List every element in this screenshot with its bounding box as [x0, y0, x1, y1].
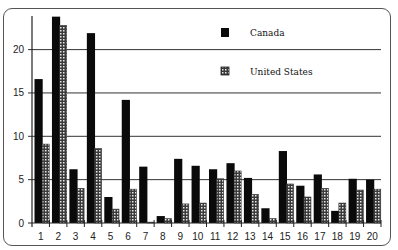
y-tick-label: 5 — [18, 174, 24, 185]
y-tick-label: 15 — [13, 87, 25, 98]
x-tick-label: 9 — [178, 231, 184, 242]
bar-canada — [157, 216, 165, 223]
x-tick-label: 6 — [125, 231, 131, 242]
legend-swatch-canada — [221, 28, 229, 37]
bar-canada — [192, 166, 200, 223]
bar-united-states — [199, 203, 206, 223]
x-tick-label: 3 — [73, 231, 79, 242]
x-tick-label: 18 — [332, 231, 344, 242]
gridlines — [28, 50, 381, 180]
bar-canada — [261, 208, 269, 223]
x-tick-label: 8 — [160, 231, 166, 242]
x-tick-label: 7 — [143, 231, 149, 242]
bar-canada — [314, 174, 322, 223]
bar-united-states — [42, 144, 49, 223]
bar-united-states — [287, 184, 294, 223]
bar-chart: 051015201234567891011121314151617181920 … — [0, 0, 398, 250]
x-tick-label: 14 — [262, 231, 274, 242]
bar-canada — [279, 151, 287, 223]
bar-canada — [139, 167, 147, 223]
bar-united-states — [339, 203, 346, 223]
bar-united-states — [164, 219, 171, 223]
bar-united-states — [269, 219, 276, 223]
bar-united-states — [112, 209, 119, 223]
bar-united-states — [77, 188, 84, 223]
x-tick-label: 11 — [210, 231, 221, 242]
x-tick-label: 13 — [245, 231, 257, 242]
bar-canada — [122, 100, 130, 223]
x-tick-label: 10 — [192, 231, 204, 242]
bar-united-states — [60, 25, 67, 223]
bar-canada — [226, 163, 234, 223]
bar-canada — [209, 169, 217, 223]
bar-united-states — [234, 171, 241, 223]
bar-united-states — [182, 204, 189, 223]
bar-canada — [52, 17, 60, 223]
legend-label-canada: Canada — [250, 28, 285, 38]
bar-canada — [69, 169, 77, 223]
bar-canada — [296, 186, 304, 223]
bar-united-states — [252, 194, 259, 223]
y-tick-label: 10 — [13, 131, 25, 142]
x-tick-label: 4 — [90, 231, 96, 242]
x-tick-label: 1 — [38, 231, 44, 242]
x-tick-label: 15 — [279, 231, 291, 242]
bar-united-states — [304, 197, 311, 223]
bar-canada — [35, 79, 43, 223]
legend-label-united-states: United States — [250, 67, 313, 77]
x-tick-label: 12 — [227, 231, 239, 242]
x-tick-label: 5 — [108, 231, 114, 242]
bar-canada — [349, 179, 357, 223]
bar-united-states — [321, 188, 328, 223]
bar-united-states — [95, 148, 102, 223]
y-tick-label: 20 — [13, 44, 25, 55]
x-tick-label: 20 — [367, 231, 379, 242]
bar-canada — [174, 159, 182, 223]
bar-united-states — [356, 190, 363, 223]
bar-united-states — [217, 179, 224, 223]
bars — [35, 17, 381, 223]
bar-canada — [366, 180, 374, 223]
legend: Canada United States — [221, 28, 313, 77]
bar-canada — [87, 33, 95, 223]
y-tick-label: 0 — [18, 218, 24, 229]
bar-canada — [244, 178, 252, 223]
x-tick-label: 2 — [55, 231, 61, 242]
x-tick-label: 16 — [297, 231, 309, 242]
x-tick-label: 19 — [349, 231, 361, 242]
bar-canada — [331, 211, 339, 223]
bar-canada — [104, 197, 112, 223]
x-tick-label: 17 — [314, 231, 326, 242]
bar-united-states — [129, 189, 136, 223]
bar-united-states — [374, 189, 381, 223]
legend-swatch-united-states — [221, 67, 229, 75]
